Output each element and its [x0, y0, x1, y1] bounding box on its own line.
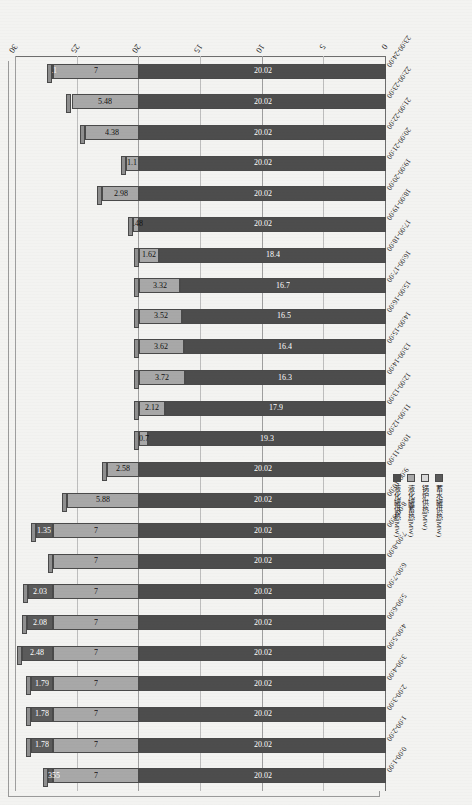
bar-segment: 1.78 — [31, 738, 53, 753]
bar-value-label: 1.62 — [142, 251, 156, 259]
bar-segment: 3.52 — [139, 309, 182, 324]
bar-value-label: 7 — [94, 741, 98, 749]
bar-value-label: 20.02 — [254, 159, 272, 167]
legend-item[interactable]: 液化罐供热(MW) — [392, 475, 402, 538]
legend-item[interactable]: 蓄水罐供热(MW) — [434, 475, 444, 538]
legend-item[interactable]: 锅炉供热(MW) — [420, 475, 430, 531]
bar-value-label: 20.02 — [254, 190, 272, 198]
bar-segment: 20.02 — [139, 707, 386, 722]
bar-end-cap — [22, 615, 27, 634]
bar-value-label: 20.02 — [254, 680, 272, 688]
bar-value-label: 2.58 — [116, 465, 130, 473]
bar-value-label: 20.02 — [254, 619, 272, 627]
bar-end-cap — [23, 584, 28, 603]
bar-value-label: 20.02 — [254, 710, 272, 718]
bar-value-label: 2.12 — [145, 404, 159, 412]
bar-segment: 1.78 — [31, 707, 53, 722]
category-label: 22:00-23:00 — [385, 65, 413, 100]
bar-value-label: 16.4 — [278, 343, 292, 351]
category-label: 13:00-14:00 — [385, 340, 413, 375]
bar-segment: 20.02 — [139, 64, 386, 79]
value-axis-tick-label: 25 — [69, 42, 82, 55]
bar-value-label: 7 — [94, 557, 98, 565]
bar-segment: 2.08 — [27, 615, 53, 630]
legend-label: 液化罐蓄热(MW) — [406, 485, 416, 538]
bar-end-cap — [121, 156, 126, 175]
bar-value-label: 16.3 — [278, 374, 292, 382]
bar-segment: 5.88 — [67, 493, 140, 508]
bar-segment: 20.02 — [139, 156, 386, 171]
bar-segment: 4.38 — [85, 125, 139, 140]
bar-segment: 7 — [53, 523, 139, 538]
category-label: 23:00-24:00 — [385, 34, 413, 69]
category-label: 19:00-20:00 — [385, 157, 413, 192]
bar-value-label: 20.02 — [254, 649, 272, 657]
bar-end-cap — [134, 401, 139, 420]
category-label: 18:00-19:00 — [385, 187, 413, 222]
category-label: 15:00-16:00 — [385, 279, 413, 314]
bar-end-cap — [128, 217, 133, 236]
legend-label: 蓄水罐供热(MW) — [434, 485, 444, 538]
bar-end-cap — [67, 94, 72, 113]
bar-value-label: 1.35 — [37, 527, 51, 535]
bar-value-label: 5.48 — [98, 98, 112, 106]
bar-end-cap — [17, 646, 22, 665]
bar-value-label: 16.7 — [276, 282, 290, 290]
bar-segment: 20.02 — [139, 462, 386, 477]
bar-segment: 7 — [53, 676, 139, 691]
bar-value-label: 20.02 — [254, 741, 272, 749]
bar-segment: 20.02 — [139, 554, 386, 569]
category-label: 16:00-17:00 — [385, 248, 413, 283]
value-axis-tick-label: 0 — [379, 42, 390, 51]
bar-end-cap — [134, 370, 139, 389]
bar-segment: 7 — [53, 738, 139, 753]
bar-value-label: 20.02 — [254, 129, 272, 137]
bar-value-label: 20.02 — [254, 527, 272, 535]
category-label: 14:00-15:00 — [385, 310, 413, 345]
bar-segment: 7 — [53, 707, 139, 722]
bar-end-cap — [97, 186, 102, 205]
bar-value-label: 7 — [94, 772, 98, 780]
bar-segment: 1.79 — [31, 676, 53, 691]
bar-segment: 1.1 — [126, 156, 140, 171]
bar-segment: 2.12 — [139, 401, 165, 416]
bar-end-cap — [26, 676, 31, 695]
bar-value-label: 0.7 — [139, 435, 149, 443]
bar-value-label: 1.78 — [35, 710, 49, 718]
grid-line — [15, 56, 16, 791]
bar-value-label: 3.62 — [154, 343, 168, 351]
category-label: 1:00-2:00 — [385, 714, 409, 743]
bar-value-label: 2.98 — [114, 190, 128, 198]
bar-value-label: 1.1 — [127, 159, 137, 167]
chart-legend: 蓄水罐供热(MW)锅炉供热(MW)液化罐蓄热(MW)液化罐供热(MW) — [388, 475, 444, 538]
plot-area: 20.0270.35520.0271.7820.0271.7820.0271.7… — [16, 56, 386, 791]
value-axis-tick-label: 30 — [7, 42, 20, 55]
bar-end-cap — [43, 768, 48, 787]
bar-value-label: 20.02 — [254, 98, 272, 106]
bar-segment: 7 — [53, 584, 139, 599]
bar-value-label: 20.02 — [254, 588, 272, 596]
bar-end-cap — [134, 431, 139, 450]
legend-item[interactable]: 液化罐蓄热(MW) — [406, 475, 416, 538]
category-label: 3:00-4:00 — [385, 653, 409, 682]
bar-value-label: 2.08 — [33, 619, 47, 627]
bar-segment: 20.02 — [139, 217, 386, 232]
chart-figure: 20.0270.35520.0271.7820.0271.7820.0271.7… — [0, 0, 472, 805]
bar-value-label: 20.02 — [254, 67, 272, 75]
bar-segment: 20.02 — [139, 738, 386, 753]
bar-segment: 3.32 — [139, 278, 180, 293]
bar-value-label: 1.79 — [35, 680, 49, 688]
bar-segment: 7 — [53, 554, 139, 569]
bar-end-cap — [80, 125, 85, 144]
bar-value-label: 4.38 — [105, 129, 119, 137]
bar-value-label: 2.48 — [30, 649, 44, 657]
category-label: 12:00-13:00 — [385, 371, 413, 406]
bar-segment: 2.98 — [102, 186, 139, 201]
bar-end-cap — [48, 554, 53, 573]
bar-segment: 7 — [53, 646, 139, 661]
bar-segment: 16.5 — [183, 309, 387, 324]
value-axis-tick-label: 15 — [192, 42, 205, 55]
bar-segment: 20.02 — [139, 768, 386, 783]
bar-segment: 2.48 — [22, 646, 53, 661]
value-axis-tick-label: 20 — [130, 42, 143, 55]
